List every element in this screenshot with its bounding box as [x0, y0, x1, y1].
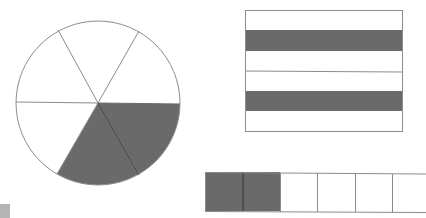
circle-fraction: [16, 21, 180, 185]
rectangle-fraction: [245, 10, 403, 132]
rect-strip-shaded: [245, 91, 402, 111]
circle-divider: [16, 102, 98, 103]
fraction-diagrams: [0, 0, 426, 218]
rect-strip: [245, 51, 402, 71]
circle-divider: [98, 31, 139, 103]
strip-fraction: [205, 172, 426, 213]
corner-mark: [0, 204, 10, 218]
rect-strip: [245, 10, 402, 30]
rect-strip: [245, 111, 402, 131]
strip-cell-shaded: [242, 172, 280, 211]
circle-divider: [58, 30, 98, 103]
strip-cell-shaded: [205, 172, 242, 211]
rect-strip-shaded: [245, 30, 402, 51]
rect-strip: [245, 71, 402, 91]
